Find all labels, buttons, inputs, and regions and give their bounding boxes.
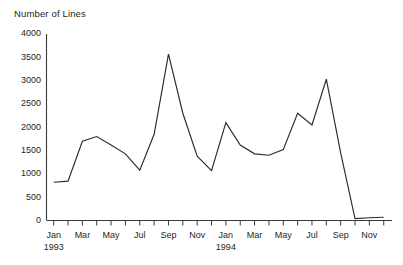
x-tick-label: Sep <box>333 230 349 240</box>
y-tick-label: 2000 <box>21 122 41 132</box>
x-axis-year-labels: 19931994 <box>44 242 236 252</box>
y-tick-label: 2500 <box>21 98 41 108</box>
data-series-line <box>54 54 384 219</box>
x-axis-year-label: 1993 <box>44 242 64 252</box>
x-axis-tick-labels: JanMarMayJulSepNovJanMarMayJulSepNov <box>46 230 377 240</box>
x-tick-label: Jul <box>306 230 318 240</box>
line-chart: Number of Lines 050010001500200025003000… <box>0 0 403 265</box>
y-tick-label: 0 <box>36 215 41 225</box>
y-tick-label: 500 <box>26 192 41 202</box>
x-tick-label: May <box>103 230 121 240</box>
y-tick-label: 3000 <box>21 75 41 85</box>
x-tick-label: Mar <box>247 230 263 240</box>
y-tick-label: 3500 <box>21 52 41 62</box>
chart-plot-area: 05001000150020002500300035004000 JanMarM… <box>0 0 403 265</box>
x-axis-year-label: 1994 <box>216 242 236 252</box>
y-tick-label: 1500 <box>21 145 41 155</box>
y-tick-label: 4000 <box>21 28 41 38</box>
x-tick-label: Sep <box>160 230 176 240</box>
x-tick-label: Nov <box>361 230 378 240</box>
x-tick-label: May <box>275 230 293 240</box>
y-axis-tick-labels: 05001000150020002500300035004000 <box>21 28 41 225</box>
x-tick-label: Nov <box>189 230 206 240</box>
x-axis-tick-marks <box>54 221 384 226</box>
x-tick-label: Mar <box>75 230 91 240</box>
y-tick-label: 1000 <box>21 168 41 178</box>
x-tick-label: Jul <box>134 230 146 240</box>
x-tick-label: Jan <box>46 230 61 240</box>
x-tick-label: Jan <box>219 230 234 240</box>
